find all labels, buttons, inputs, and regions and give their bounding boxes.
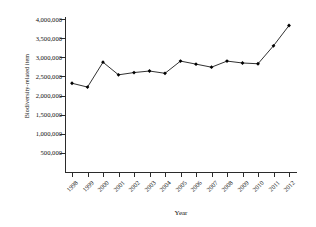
x-tick-mark xyxy=(181,173,182,177)
x-tick-mark xyxy=(243,173,244,177)
data-point-marker xyxy=(194,62,198,66)
y-tick-mark xyxy=(60,19,65,20)
series-polyline xyxy=(72,26,289,88)
x-tick-mark xyxy=(196,173,197,177)
data-point-marker xyxy=(225,59,229,63)
data-point-marker xyxy=(132,71,136,75)
y-tick-mark xyxy=(60,76,65,77)
x-tick-mark xyxy=(289,173,290,177)
data-point-marker xyxy=(210,65,214,69)
x-tick-mark xyxy=(212,173,213,177)
x-axis-title: Year xyxy=(65,209,297,217)
x-tick-mark xyxy=(227,173,228,177)
x-tick-mark xyxy=(119,173,120,177)
data-point-marker xyxy=(148,69,152,73)
series-markers xyxy=(70,24,291,89)
x-tick-mark xyxy=(103,173,104,177)
x-tick-mark xyxy=(134,173,135,177)
y-tick-mark xyxy=(60,134,65,135)
y-tick-mark xyxy=(60,115,65,116)
x-tick-mark xyxy=(274,173,275,177)
x-tick-mark xyxy=(258,173,259,177)
y-tick-mark xyxy=(60,57,65,58)
y-tick-mark xyxy=(60,38,65,39)
x-tick-mark xyxy=(88,173,89,177)
data-point-marker xyxy=(241,61,245,65)
data-point-marker xyxy=(70,81,74,85)
x-tick-mark xyxy=(72,173,73,177)
chart-figure: Biodiversity-related item 500,0001,000,0… xyxy=(0,0,316,227)
x-tick-mark xyxy=(150,173,151,177)
y-tick-mark xyxy=(60,153,65,154)
y-tick-mark xyxy=(60,96,65,97)
x-tick-mark xyxy=(165,173,166,177)
